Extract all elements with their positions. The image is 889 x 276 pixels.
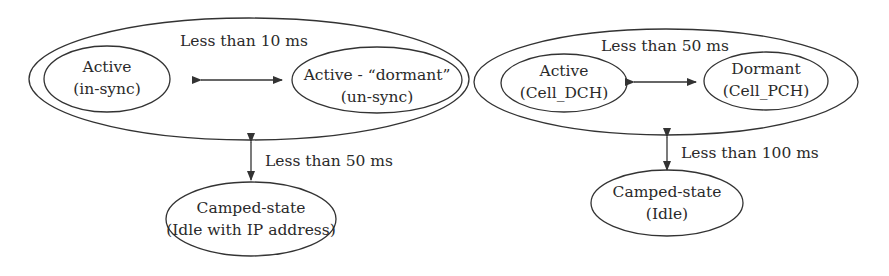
state-ellipse [166, 182, 336, 256]
outer-group-label: Less than 50 ms [601, 37, 729, 55]
state-dormant-cell-pch[interactable]: Dormant (Cell_PCH) [704, 52, 828, 110]
state-subtitle: (Idle) [646, 205, 688, 223]
state-title: Active - “dormant” [303, 66, 451, 84]
state-ellipse [44, 46, 170, 112]
state-title: Dormant [731, 60, 801, 78]
state-subtitle: (Idle with IP address) [166, 221, 336, 239]
state-subtitle: (in-sync) [73, 80, 141, 98]
state-camped-idle-ip[interactable]: Camped-state (Idle with IP address) [166, 182, 336, 256]
transition-time-label: Less than 50 ms [265, 152, 393, 170]
state-active-cell-dch[interactable]: Active (Cell_DCH) [501, 54, 627, 112]
state-title: Camped-state [613, 183, 722, 201]
state-active-in-sync[interactable]: Active (in-sync) [44, 46, 170, 112]
state-ellipse [591, 170, 743, 236]
transition-time-label: Less than 100 ms [681, 144, 819, 162]
left-diagram: Less than 10 ms Active (in-sync) Active … [29, 18, 469, 256]
state-diagrams: Less than 10 ms Active (in-sync) Active … [0, 0, 889, 276]
state-title: Active [539, 62, 589, 80]
state-active-dormant[interactable]: Active - “dormant” (un-sync) [292, 47, 462, 113]
state-camped-idle[interactable]: Camped-state (Idle) [591, 170, 743, 236]
state-title: Active [82, 58, 132, 76]
state-subtitle: (Cell_DCH) [520, 84, 609, 102]
state-title: Camped-state [197, 199, 306, 217]
state-subtitle: (un-sync) [341, 88, 414, 106]
outer-group-label: Less than 10 ms [180, 32, 308, 50]
right-diagram: Less than 50 ms Active (Cell_DCH) Dorman… [474, 29, 858, 236]
state-subtitle: (Cell_PCH) [723, 82, 810, 100]
